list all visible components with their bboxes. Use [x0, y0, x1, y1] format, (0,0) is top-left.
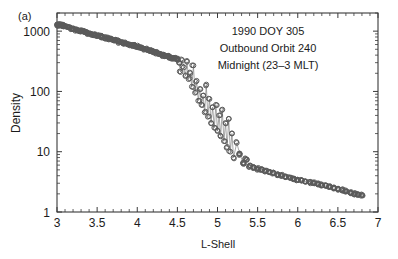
x-tick-label: 5	[214, 216, 221, 230]
panel-label: (a)	[18, 10, 31, 22]
y-tick-label: 1000	[23, 25, 50, 39]
x-tick-label: 3	[54, 216, 61, 230]
y-axis-tick-labels: 1101001000	[23, 25, 50, 220]
x-axis-title: L-Shell	[201, 238, 235, 250]
x-axis-tick-labels: 33.544.555.566.57	[54, 216, 382, 230]
y-tick-label: 1	[43, 206, 50, 220]
axis-ticks	[57, 13, 378, 212]
x-tick-label: 3.5	[89, 216, 106, 230]
plot-frame	[57, 13, 378, 212]
x-tick-label: 4.5	[169, 216, 186, 230]
y-tick-label: 10	[37, 145, 51, 159]
y-axis-title: Density	[9, 93, 23, 133]
x-tick-label: 4	[134, 216, 141, 230]
x-tick-label: 6.5	[330, 216, 347, 230]
x-tick-label: 7	[375, 216, 382, 230]
x-tick-label: 5.5	[249, 216, 266, 230]
annotation-line-2: Outbound Orbit 240	[220, 42, 317, 54]
x-tick-label: 6	[294, 216, 301, 230]
data-series-density	[55, 22, 365, 198]
annotation-line-1: 1990 DOY 305	[232, 25, 305, 37]
y-tick-label: 100	[30, 85, 50, 99]
density-l-shell-plot: 33.544.555.566.57 1101001000 (a) 1990 DO…	[0, 0, 398, 259]
annotation-line-3: Midnight (23–3 MLT)	[218, 59, 319, 71]
